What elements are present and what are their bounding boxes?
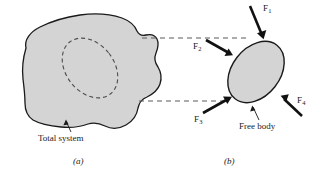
force-label-F2: F2 <box>193 42 202 53</box>
force-label-F3: F3 <box>194 115 203 126</box>
total-system-blob <box>23 14 161 128</box>
force-subscript-F4: 4 <box>302 99 306 106</box>
total-system-annotation: Total system <box>38 134 84 143</box>
figure-canvas <box>0 0 320 176</box>
force-label-F1: F1 <box>263 4 272 15</box>
caption-panel-b: (b) <box>224 157 235 166</box>
force-arrow-F3 <box>203 97 232 113</box>
free-body-leader <box>250 105 259 120</box>
force-arrow-F2 <box>206 40 233 56</box>
force-label-F4: F4 <box>297 96 306 107</box>
free-body-annotation: Free body <box>239 122 275 131</box>
caption-panel-a: (a) <box>73 157 84 166</box>
force-subscript-F1: 1 <box>268 7 272 14</box>
force-subscript-F2: 2 <box>198 45 202 52</box>
force-subscript-F3: 3 <box>199 118 203 125</box>
engineering-figure: F1 F2 F3 F4 Total system Free body (a) (… <box>0 0 320 176</box>
